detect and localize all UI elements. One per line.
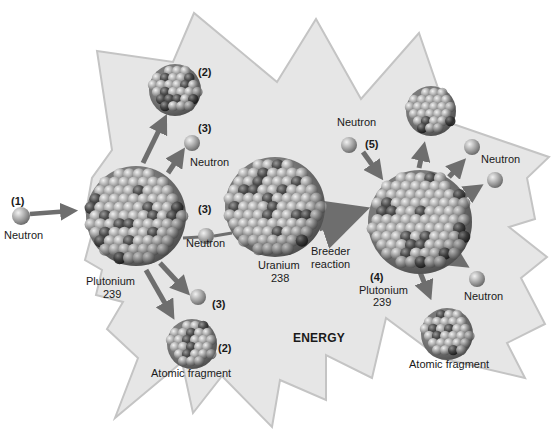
neutron-3a-icon xyxy=(184,135,200,151)
breeder-reaction-diagram: (1) Neutron Plutonium 239 (2) (3) Neutro… xyxy=(0,0,558,440)
plutonium-right-mass: 239 xyxy=(373,296,391,309)
fragment-bottom-label: Atomic fragment xyxy=(151,367,231,380)
neutron-3a-label: Neutron xyxy=(190,156,229,169)
neutron-1-label: Neutron xyxy=(4,229,43,242)
diagram-canvas xyxy=(0,0,558,440)
energy-label: ENERGY xyxy=(293,332,345,345)
neutron-r3-icon xyxy=(469,271,485,287)
neutron-r1-label: Neutron xyxy=(481,153,520,166)
neutron-1-icon xyxy=(12,207,30,225)
neutron-3a-step-label: (3) xyxy=(198,122,211,135)
plutonium-left-name: Plutonium xyxy=(86,275,135,288)
neutron-r2-icon xyxy=(487,172,503,188)
arrow-neutron1-to-pu xyxy=(30,211,70,214)
neutron-5-step-label: (5) xyxy=(365,138,378,151)
uranium-name: Uranium xyxy=(258,259,300,272)
fragment-top-step-label: (2) xyxy=(198,66,211,79)
neutron-3c-icon xyxy=(190,289,206,305)
fragment-bottom-step-label: (2) xyxy=(218,342,231,355)
plutonium-left-mass: 239 xyxy=(103,288,121,301)
breeder-label-line2: reaction xyxy=(311,258,350,271)
fragment-bottom-right-label: Atomic fragment xyxy=(409,358,489,371)
neutron-r1-icon xyxy=(464,139,480,155)
neutron-5-label: Neutron xyxy=(337,116,376,129)
uranium-mass: 238 xyxy=(271,272,289,285)
neutron-3b-step-label: (3) xyxy=(198,203,211,216)
neutron-3b-label: Neutron xyxy=(186,237,225,250)
neutron-r3-label: Neutron xyxy=(464,290,503,303)
breeder-label-line1: Breeder xyxy=(311,245,350,258)
neutron-3c-step-label: (3) xyxy=(212,298,225,311)
neutron-5-icon xyxy=(341,137,357,153)
step-1-label: (1) xyxy=(11,195,24,208)
plutonium-right-step-label: (4) xyxy=(370,271,383,284)
